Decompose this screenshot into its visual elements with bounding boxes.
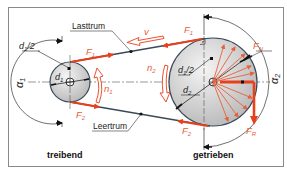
label-F1-driven: F1 <box>184 24 193 36</box>
label-FR: FR <box>246 125 257 137</box>
label-d2-half: d1/2 <box>178 65 194 76</box>
label-n2: n2 <box>147 62 156 74</box>
label-v: v <box>144 26 150 37</box>
label-FN: FN <box>253 40 264 52</box>
label-d1-half: d1/2 <box>19 41 35 52</box>
rotation-n1-arrow <box>94 68 103 103</box>
label-F2-driven: F2 <box>182 125 192 137</box>
label-F1-driving: F1 <box>86 46 95 58</box>
label-alpha1: α1 <box>13 78 26 88</box>
velocity-arrow <box>127 36 164 46</box>
belt-drive-diagram: Lasttrum Leertrum d1/2 d1 d1/2 d2 F1 F1 … <box>0 0 287 174</box>
label-n1: n1 <box>104 83 113 95</box>
label-treibend: treibend <box>47 150 83 160</box>
label-leertrum: Leertrum <box>93 121 127 131</box>
label-F2-driving: F2 <box>76 109 86 121</box>
label-lasttrum: Lasttrum <box>72 21 105 31</box>
force-F2-driving <box>71 102 99 107</box>
label-getrieben: getrieben <box>193 150 234 160</box>
label-alpha2: α2 <box>268 74 281 84</box>
